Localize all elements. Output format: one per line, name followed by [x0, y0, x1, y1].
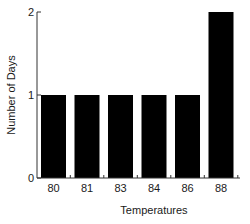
bars-group [41, 12, 234, 178]
x-axis-title: Temperatures [120, 204, 188, 216]
bar-81 [75, 95, 100, 178]
y-axis-title: Number of Days [5, 55, 17, 135]
bar-chart: 012 808183848688 Temperatures Number of … [0, 0, 250, 224]
x-tick-label-84: 84 [148, 182, 160, 194]
bar-88 [209, 12, 234, 178]
y-tick-label-1: 1 [28, 89, 34, 101]
bar-86 [175, 95, 200, 178]
x-axis: 808183848688 [37, 175, 240, 194]
y-axis: 012 [28, 6, 41, 184]
x-tick-label-80: 80 [47, 182, 59, 194]
bar-80 [41, 95, 66, 178]
bar-83 [108, 95, 133, 178]
x-tick-label-88: 88 [215, 182, 227, 194]
x-tick-label-86: 86 [181, 182, 193, 194]
bar-84 [142, 95, 167, 178]
y-tick-label-2: 2 [28, 6, 34, 18]
x-tick-label-83: 83 [114, 182, 126, 194]
x-tick-label-81: 81 [81, 182, 93, 194]
y-tick-label-0: 0 [28, 172, 34, 184]
